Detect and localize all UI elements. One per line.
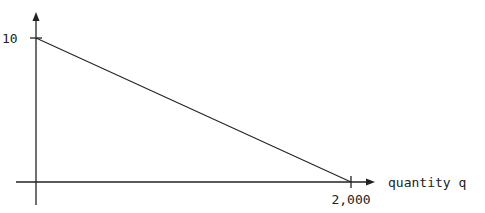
series-line-demand bbox=[36, 38, 351, 182]
x-axis-label: quantity q bbox=[388, 175, 466, 190]
x-tick-label: 2,000 bbox=[331, 192, 370, 207]
y-axis-arrow-icon bbox=[33, 12, 40, 21]
chart: 2,00010 quantity q bbox=[0, 0, 485, 213]
y-tick-label: 10 bbox=[2, 31, 18, 46]
x-axis-arrow-icon bbox=[366, 179, 375, 186]
